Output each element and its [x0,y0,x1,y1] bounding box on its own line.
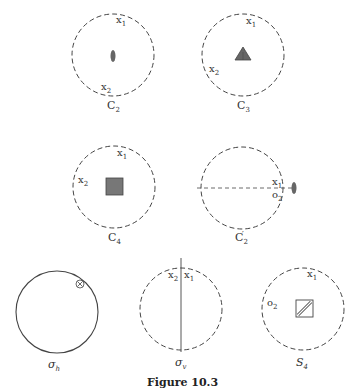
label-c4: C4 [108,231,121,246]
label-x1: x1 [117,147,127,161]
symmetry-elements-figure: x1 x2 C2 x1 x2 C3 x1 x2 C4 x1 o2 C2′ σh [0,0,357,389]
label-c3: C3 [237,99,250,114]
label-x1: x1 [184,269,194,283]
label-x2: x2 [101,81,111,95]
label-x1: x1 [307,268,317,282]
label-sigma-v: σv [175,356,187,371]
panel-c3: x1 x2 C3 [202,14,284,114]
figure-caption: Figure 10.3 [147,376,218,389]
panel-c2: x1 x2 C2 [72,14,154,114]
twofold-axis-ellipse-icon [111,50,116,62]
label-x1: x1 [272,176,282,190]
label-x1: x1 [246,15,256,29]
panel-c2-prime: x1 o2 C2′ [197,147,297,246]
panel-s4: x1 o2 S4 [262,268,344,371]
label-c2: C2 [107,99,120,114]
label-x2: x2 [78,174,88,188]
label-c2-prime: C2′ [235,229,248,246]
fourfold-axis-square-icon [106,178,123,195]
panel-sigma-h: σh [16,271,98,373]
label-o2: o2 [267,297,278,311]
label-x2: x2 [209,63,219,77]
label-s4: S4 [296,356,308,371]
panel-sigma-v: x2 x1 σv [140,258,222,371]
label-x2: x2 [168,269,178,283]
label-o2: o2 [272,189,283,203]
label-sigma-h: σh [48,358,60,373]
twofold-axis-ellipse-icon [292,182,297,194]
panel-c4: x1 x2 C4 [73,146,155,246]
solid-circle [16,271,98,353]
